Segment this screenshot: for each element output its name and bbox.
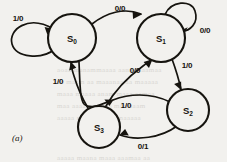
edge-s1-to-s2 <box>172 59 181 90</box>
state-node-s1[interactable]: S1 <box>137 14 185 62</box>
arrowhead-s2-s3 <box>120 129 129 136</box>
edge-label-s0-s0: 1/0 <box>13 14 24 23</box>
edge-path-s2-s3 <box>120 126 177 138</box>
arrowhead-s1-s2 <box>174 82 181 91</box>
state-node-s0[interactable]: S0 <box>48 14 96 62</box>
edge-s2-to-s3 <box>120 126 177 138</box>
edge-label-s3-s1: 0/0 <box>130 66 141 75</box>
edge-label-s2-s0: 1/0 <box>121 101 132 110</box>
figure-caption: (a) <box>12 133 23 143</box>
state-node-s2[interactable]: S2 <box>167 89 209 131</box>
state-node-s3[interactable]: S3 <box>78 106 120 148</box>
state-diagram: S0 S1 S2 S3 1/0 0/0 0/0 1/0 1/0 0/1 1/0 … <box>0 0 227 162</box>
edge-label-s1-s1: 0/0 <box>200 26 211 35</box>
edge-label-s3-s0: 1/0 <box>53 77 64 86</box>
edge-label-s1-s2: 1/0 <box>182 61 193 70</box>
edge-label-s2-s3: 0/1 <box>138 142 149 151</box>
figure-page: aoaa manammaaaa aana aaaamaaaa maam aa m… <box>0 0 227 162</box>
edge-label-s0-s1: 0/0 <box>115 4 126 13</box>
